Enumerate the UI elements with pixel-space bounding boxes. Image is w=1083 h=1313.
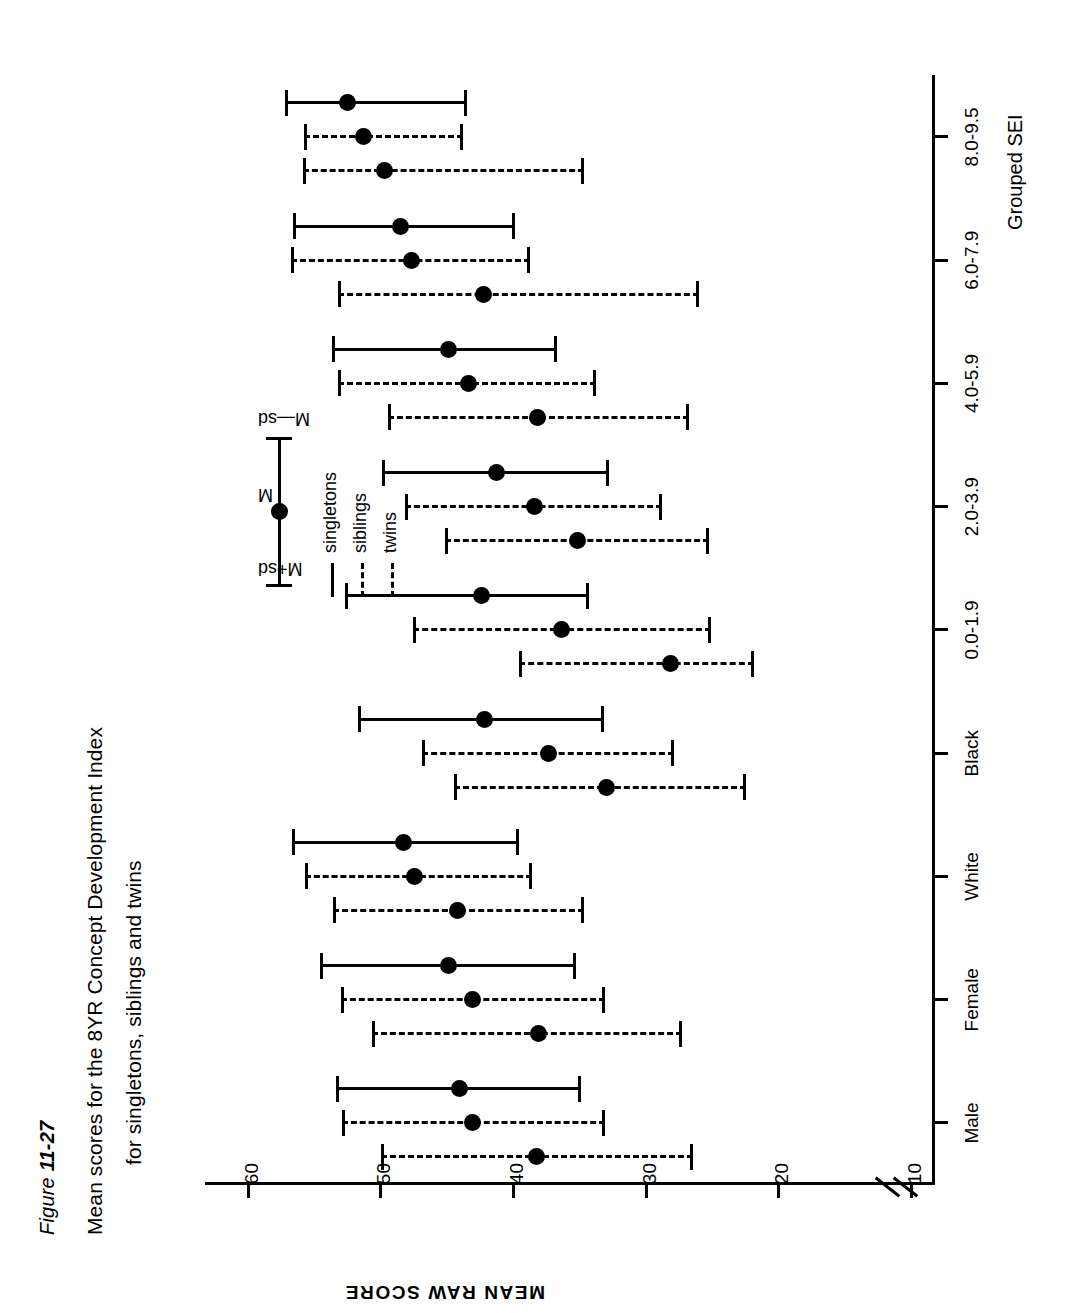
error-bar-cap-hi xyxy=(342,1110,345,1136)
error-bar-cap-hi xyxy=(303,158,306,184)
figure-title-line-1: Mean scores for the 8YR Concept Developm… xyxy=(83,727,107,1235)
figure-number-prefix: Figure xyxy=(36,1171,58,1235)
x-axis-title: Grouped SEI xyxy=(1004,114,1027,230)
error-bar xyxy=(405,494,662,520)
error-bar-cap-lo xyxy=(690,1144,693,1170)
error-bar-cap-hi xyxy=(372,1021,375,1047)
error-bar-cap-hi xyxy=(358,706,361,732)
error-bar-cap-lo xyxy=(606,460,609,486)
mean-marker-dot xyxy=(464,1115,481,1132)
mean-marker-dot xyxy=(355,129,372,146)
error-bar-cap-lo xyxy=(602,987,605,1013)
error-bar xyxy=(388,405,689,431)
mean-marker-dot xyxy=(530,1025,547,1042)
error-bar-stem xyxy=(338,293,699,296)
error-bar xyxy=(445,528,709,554)
legend-label-m-minus-sd: M+sd xyxy=(258,558,303,579)
x-axis-tick xyxy=(935,629,948,632)
figure-number: Figure 11-27 xyxy=(36,1121,59,1235)
y-axis-tick-label: 30 xyxy=(639,1163,661,1223)
y-axis-tick-label: 50 xyxy=(373,1163,395,1223)
error-bar xyxy=(305,864,532,890)
mean-marker-dot xyxy=(406,868,423,885)
error-bar-cap-hi xyxy=(320,953,323,979)
error-bar xyxy=(519,651,754,677)
error-bar-cap-lo xyxy=(586,583,589,609)
legend-label-m-plus-sd: M—sd xyxy=(258,408,310,429)
mean-marker-dot xyxy=(403,252,420,269)
error-bar-stem xyxy=(304,136,463,139)
error-bar-cap-hi xyxy=(338,281,341,307)
error-bar xyxy=(320,953,576,979)
error-bar-cap-lo xyxy=(708,617,711,643)
x-axis-tick-label: Male xyxy=(961,1102,983,1143)
error-bar xyxy=(336,1076,581,1102)
mean-marker-dot xyxy=(460,375,477,392)
legend-item-label: twins xyxy=(380,512,401,553)
error-bar-cap-lo xyxy=(679,1021,682,1047)
legend-bar-cap-low xyxy=(266,584,292,587)
mean-marker-dot xyxy=(528,1149,545,1166)
legend-bar-mean-dot xyxy=(271,503,288,520)
error-bar-cap-hi xyxy=(336,1076,339,1102)
y-axis-tick-label: 20 xyxy=(771,1163,793,1223)
error-bar-cap-lo xyxy=(686,405,689,431)
mean-marker-dot xyxy=(339,95,356,112)
mean-marker-dot xyxy=(392,218,409,235)
x-axis-tick-label: 8.0-9.5 xyxy=(961,107,983,166)
mean-marker-dot xyxy=(449,902,466,919)
error-bar-cap-hi xyxy=(413,617,416,643)
error-bar-cap-lo xyxy=(460,124,463,150)
error-bar-stem xyxy=(285,102,467,105)
error-bar xyxy=(285,90,467,116)
y-axis-tick-label: 40 xyxy=(506,1163,528,1223)
x-axis-tick-label: 0.0-1.9 xyxy=(961,600,983,659)
error-bar-stem xyxy=(372,1032,683,1035)
figure-title-line-2: for singletons, siblings and twins xyxy=(122,860,146,1165)
error-bar-cap-lo xyxy=(578,1076,581,1102)
error-bar xyxy=(292,830,519,856)
mean-marker-dot xyxy=(662,656,679,673)
legend: M—sd M M+sd singletonssiblingstwins xyxy=(236,341,426,601)
x-axis-tick xyxy=(935,505,948,508)
mean-marker-dot xyxy=(451,1081,468,1098)
error-bar-stem xyxy=(303,170,584,173)
error-bar-cap-lo xyxy=(601,706,604,732)
mean-marker-dot xyxy=(488,464,505,481)
error-bar-cap-lo xyxy=(696,281,699,307)
error-bar-cap-lo xyxy=(573,953,576,979)
error-bar-cap-hi xyxy=(341,987,344,1013)
error-bar-cap-hi xyxy=(422,740,425,766)
mean-marker-dot xyxy=(440,957,457,974)
error-bar xyxy=(413,617,712,643)
error-bar xyxy=(342,1110,605,1136)
mean-marker-dot xyxy=(464,991,481,1008)
error-bar-cap-lo xyxy=(602,1110,605,1136)
legend-item-label: singletons xyxy=(320,472,341,553)
error-bar xyxy=(454,774,746,800)
error-bar-stem xyxy=(519,663,754,666)
error-bar xyxy=(303,158,584,184)
error-bar-cap-hi xyxy=(519,651,522,677)
x-axis-tick-label: 6.0-7.9 xyxy=(961,231,983,290)
error-bar-cap-hi xyxy=(454,774,457,800)
error-bar-cap-lo xyxy=(529,864,532,890)
error-bar-cap-lo xyxy=(581,898,584,924)
y-axis-line xyxy=(205,1182,935,1185)
x-axis-tick xyxy=(935,875,948,878)
error-bar-cap-lo xyxy=(593,371,596,397)
error-bar-cap-lo xyxy=(527,247,530,273)
legend-line-sample-solid xyxy=(331,563,334,597)
y-axis-title: MEAN RAW SCORE xyxy=(344,1281,545,1303)
error-bar-cap-lo xyxy=(706,528,709,554)
error-bar-cap-hi xyxy=(304,124,307,150)
error-bar-cap-lo xyxy=(512,213,515,239)
error-bar xyxy=(341,987,605,1013)
error-bar xyxy=(422,740,674,766)
error-bar-cap-hi xyxy=(291,247,294,273)
mean-marker-dot xyxy=(475,286,492,303)
legend-label-m: M xyxy=(258,484,273,505)
x-axis-tick-label: Black xyxy=(961,730,983,776)
error-bar-cap-lo xyxy=(464,90,467,116)
error-bar-cap-hi xyxy=(293,213,296,239)
